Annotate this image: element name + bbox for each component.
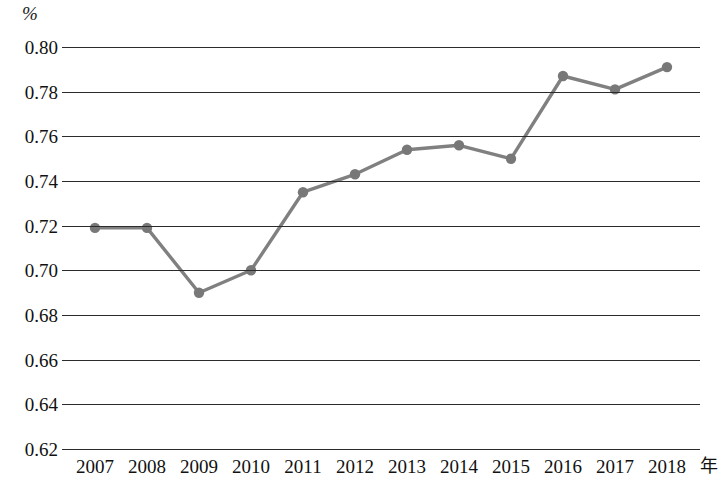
- gridline: [62, 92, 700, 93]
- gridline: [62, 136, 700, 137]
- y-axis-tick-label: 0.66: [25, 350, 58, 369]
- gridline: [62, 404, 700, 405]
- data-point-marker: [142, 223, 152, 233]
- x-axis-tick-label: 2010: [232, 455, 270, 480]
- x-axis-tick-label: 2009: [180, 455, 218, 480]
- data-point-marker: [662, 62, 672, 72]
- gridline: [62, 270, 700, 271]
- x-axis-tick-label: 2014: [440, 455, 478, 480]
- data-point-marker: [298, 187, 308, 197]
- x-axis-tick-label: 2015: [492, 455, 530, 480]
- chart-page: % 0.800.780.760.740.720.700.680.660.640.…: [0, 0, 722, 487]
- gridline: [62, 226, 700, 227]
- y-axis-tick-label: 0.74: [25, 172, 58, 191]
- data-point-marker: [350, 169, 360, 179]
- x-axis-tick-labels: 年 20072008200920102011201220132014201520…: [0, 455, 722, 487]
- y-axis-tick-label: 0.80: [25, 38, 58, 57]
- y-axis-tick-label: 0.64: [25, 395, 58, 414]
- data-point-marker: [558, 71, 568, 81]
- series-line: [95, 67, 667, 293]
- data-point-marker: [90, 223, 100, 233]
- line-series-svg: [62, 47, 700, 449]
- y-axis-tick-label: 0.72: [25, 216, 58, 235]
- gridline: [62, 181, 700, 182]
- data-point-marker: [506, 154, 516, 164]
- x-axis-tick-label: 2016: [544, 455, 582, 480]
- gridline: [62, 360, 700, 361]
- x-axis-unit-label: 年: [700, 455, 718, 478]
- gridline: [62, 47, 700, 48]
- gridline: [62, 315, 700, 316]
- x-axis-tick-label: 2018: [648, 455, 686, 480]
- x-axis-tick-label: 2013: [388, 455, 426, 480]
- y-axis-tick-label: 0.78: [25, 82, 58, 101]
- x-axis-tick-label: 2007: [76, 455, 114, 480]
- x-axis-tick-label: 2017: [596, 455, 634, 480]
- data-point-marker: [454, 140, 464, 150]
- y-axis-tick-label: 0.68: [25, 306, 58, 325]
- y-axis-tick-label: 0.76: [25, 127, 58, 146]
- y-axis-tick-label: 0.70: [25, 261, 58, 280]
- plot-area: [62, 47, 700, 449]
- data-point-marker: [402, 145, 412, 155]
- y-axis-unit-label: %: [22, 4, 38, 23]
- x-axis-tick-label: 2012: [336, 455, 374, 480]
- y-axis-tick-labels: 0.800.780.760.740.720.700.680.660.640.62: [0, 47, 62, 449]
- x-axis-tick-label: 2011: [284, 455, 321, 480]
- data-point-marker: [610, 84, 620, 94]
- x-axis-tick-label: 2008: [128, 455, 166, 480]
- data-point-marker: [194, 288, 204, 298]
- gridline: [62, 449, 700, 450]
